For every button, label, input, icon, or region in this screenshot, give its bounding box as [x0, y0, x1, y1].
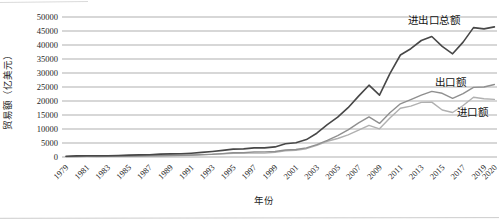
x-tick-label: 2001	[281, 162, 300, 181]
scan-artifact-bottom-rule	[0, 218, 499, 219]
y-tick-label: 30000	[37, 68, 58, 78]
x-tick-label: 2007	[344, 162, 363, 181]
x-tick-label: 1985	[114, 162, 133, 181]
x-axis-title: 年份	[254, 195, 274, 206]
y-tick-label: 40000	[37, 40, 58, 50]
x-tick-label: 1999	[260, 162, 279, 181]
scan-artifact-top-rule	[0, 2, 88, 3]
x-tick-label: 1997	[239, 162, 258, 181]
y-axis-title: 贸易额（亿美元）	[2, 50, 13, 130]
x-tick-label: 1995	[219, 162, 238, 181]
y-tick-label: 35000	[37, 54, 58, 64]
series-line-进口额	[66, 97, 494, 156]
series-label-annotation: 进出口总额	[408, 14, 461, 26]
x-tick-label: 1981	[72, 162, 91, 181]
x-tick-label: 2009	[365, 162, 384, 181]
x-tick-label: 2003	[302, 162, 321, 181]
y-tick-label: 45000	[37, 26, 58, 36]
series-label-annotation: 进口额	[457, 106, 489, 118]
x-tick-label: 2017	[448, 162, 467, 181]
x-tick-label: 1983	[93, 162, 112, 181]
gridlines	[62, 17, 497, 157]
y-tick-label: 5000	[41, 138, 58, 148]
y-tick-label: 50000	[37, 12, 58, 22]
x-tick-label: 1989	[156, 162, 175, 181]
series-label-annotation: 出口额	[435, 76, 467, 88]
x-tick-label: 1993	[198, 162, 217, 181]
x-tick-label: 2011	[386, 162, 405, 181]
trade-line-chart-figure: 0500010000150002000025000300003500040000…	[0, 0, 499, 220]
x-tick-label: 1979	[51, 162, 70, 181]
x-tick-label: 1991	[177, 162, 196, 181]
y-tick-label: 0	[54, 152, 58, 162]
series-lines	[66, 27, 494, 157]
x-tick-label: 1987	[135, 162, 154, 181]
trade-chart-svg: 0500010000150002000025000300003500040000…	[0, 0, 499, 220]
y-tick-label: 15000	[37, 110, 58, 120]
x-tick-label: 2005	[323, 162, 342, 181]
x-tick-label: 2015	[428, 162, 447, 181]
y-tick-label: 20000	[37, 96, 58, 106]
y-tick-label: 25000	[37, 82, 58, 92]
x-tick-label: 2013	[407, 162, 426, 181]
y-tick-label: 10000	[37, 124, 58, 134]
